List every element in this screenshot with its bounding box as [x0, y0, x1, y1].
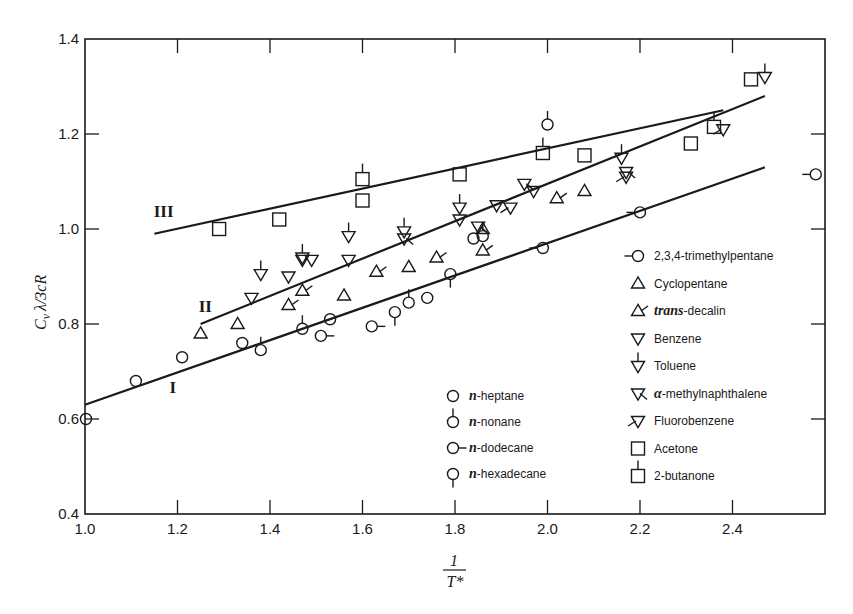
series-n-heptane — [81, 233, 480, 425]
legend-label-prefix: trans — [654, 303, 684, 318]
line-label-I: I — [170, 378, 177, 397]
legend-label-text: -heptane — [477, 389, 525, 403]
series-fluorobenzene — [501, 125, 730, 214]
series-2-3-4-trimethylpentane — [529, 169, 821, 254]
triangle-up-marker — [402, 261, 415, 272]
triangle-down-marker — [342, 232, 355, 243]
y-axis-label-main: C — [32, 319, 49, 330]
marker-stem — [560, 193, 567, 198]
marker-stem — [616, 177, 624, 182]
legend-right-item: Fluorobenzene — [628, 414, 734, 428]
y-tick-label: 1.4 — [58, 30, 79, 47]
circle-marker — [366, 321, 377, 332]
y-axis-label-sub: v — [39, 313, 53, 319]
legend-label-text: Benzene — [654, 332, 702, 346]
x-tick-label: 1.4 — [260, 520, 281, 537]
square-marker — [453, 168, 466, 181]
legend-right-item: trans-decalin — [632, 303, 726, 318]
svg-text:Cvλ/3cR: Cvλ/3cR — [32, 275, 53, 330]
legend-right-item: α-methylnaphthalene — [632, 386, 768, 401]
square-marker — [356, 194, 369, 207]
line-label-III: III — [154, 202, 174, 221]
y-tick-label: 0.8 — [58, 315, 79, 332]
legend-label-text: -decalin — [684, 304, 726, 318]
circle-marker — [389, 307, 400, 318]
circle-marker — [177, 352, 188, 363]
legend-label-text: 2-butanone — [654, 469, 715, 483]
triangle-down-marker — [254, 270, 267, 281]
triangle-down-marker — [453, 203, 466, 214]
legend-label: n-dodecane — [469, 440, 534, 455]
legend-label: 2,3,4-trimethylpentane — [654, 249, 774, 263]
square-marker — [632, 442, 645, 455]
circle-marker — [542, 119, 553, 130]
series--methylnaphthalene — [398, 167, 636, 245]
legend-label: n-hexadecane — [469, 466, 547, 481]
circle-marker — [237, 338, 248, 349]
legend-label: 2-butanone — [654, 469, 715, 483]
legend-label: Benzene — [654, 332, 702, 346]
y-tick-label: 0.4 — [58, 505, 79, 522]
y-tick-label: 0.6 — [58, 410, 79, 427]
marker-stem — [440, 253, 447, 258]
triangle-down-marker — [282, 272, 295, 283]
circle-marker — [130, 376, 141, 387]
legend-label-text: 2,3,4-trimethylpentane — [654, 249, 774, 263]
x-tick-label: 1.2 — [167, 520, 188, 537]
circle-marker — [315, 330, 326, 341]
square-marker — [273, 213, 286, 226]
series-n-hexadecane — [389, 269, 456, 326]
square-marker — [356, 173, 369, 186]
circle-marker — [448, 391, 459, 402]
legend-right-item: Acetone — [632, 442, 699, 456]
legend-left-item: n-heptane — [448, 388, 525, 403]
legend-right-item: 2-butanone — [632, 461, 716, 484]
y-tick-label: 1.2 — [58, 125, 79, 142]
legend-left-item: n-hexadecane — [448, 466, 547, 488]
circle-marker — [403, 297, 414, 308]
series-n-dodecane — [315, 321, 385, 342]
marker-stem — [640, 394, 647, 400]
legend-label-prefix: n — [469, 440, 477, 455]
marker-stem — [379, 267, 386, 272]
triangle-down-marker — [632, 334, 645, 345]
circle-marker — [422, 292, 433, 303]
triangle-up-marker — [231, 318, 244, 329]
x-tick-label: 2.0 — [537, 520, 558, 537]
triangle-down-marker — [632, 361, 645, 372]
marker-stem — [641, 306, 648, 311]
y-axis-label-frac: λ/3cR — [32, 275, 49, 312]
marker-stem — [628, 421, 636, 426]
triangle-up-marker — [338, 289, 351, 300]
x-tick-label: 2.2 — [630, 520, 651, 537]
x-tick-label: 1.6 — [352, 520, 373, 537]
legend-label-text: -nonane — [477, 415, 521, 429]
marker-stem — [305, 286, 312, 291]
legend-label: n-nonane — [469, 414, 521, 429]
legend-label-prefix: n — [469, 414, 477, 429]
legend-label: Toluene — [654, 359, 696, 373]
square-marker — [745, 73, 758, 86]
square-marker — [632, 470, 645, 483]
legend-right-item: Cyclopentane — [632, 277, 728, 291]
legend-right-item: Benzene — [632, 332, 702, 346]
square-marker — [684, 137, 697, 150]
x-tick-label: 2.4 — [722, 520, 743, 537]
legend-label-text: Fluorobenzene — [654, 414, 734, 428]
line-label-II: II — [199, 297, 213, 316]
marker-stem — [486, 245, 493, 250]
legend-left-item: n-dodecane — [448, 440, 534, 455]
square-marker — [578, 149, 591, 162]
legend-label-text: -dodecane — [477, 441, 534, 455]
legend-label-text: Toluene — [654, 359, 696, 373]
x-axis-label-numerator: 1 — [450, 552, 458, 569]
x-tick-label: 1.0 — [75, 520, 96, 537]
legend-label: α-methylnaphthalene — [654, 386, 767, 401]
legend-right-item: 2,3,4-trimethylpentane — [625, 249, 774, 263]
legend-label: Fluorobenzene — [654, 414, 734, 428]
circle-marker — [448, 469, 459, 480]
triangle-up-marker — [632, 277, 645, 288]
circle-marker — [448, 417, 459, 428]
circle-marker — [633, 251, 644, 262]
legend-label-text: Acetone — [654, 442, 698, 456]
